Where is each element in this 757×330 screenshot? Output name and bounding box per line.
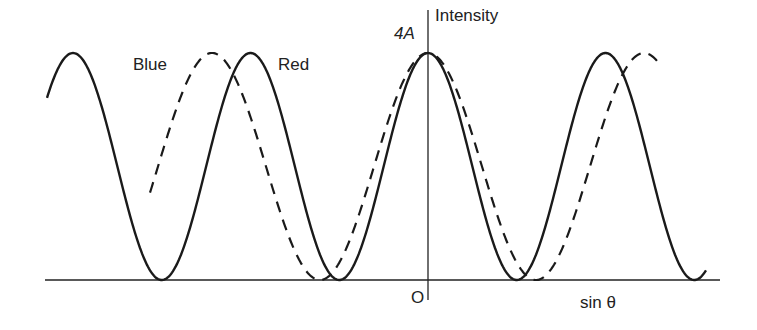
red-curve (47, 53, 706, 280)
blue-curve-label: Blue (133, 55, 167, 75)
x-axis-label: sin θ (580, 293, 616, 313)
y-axis-label: Intensity (435, 6, 498, 26)
blue-curve (150, 53, 657, 280)
origin-label: O (411, 288, 424, 308)
interference-diagram (0, 0, 757, 330)
red-curve-label: Red (278, 55, 309, 75)
peak-value-label: 4A (394, 24, 415, 44)
